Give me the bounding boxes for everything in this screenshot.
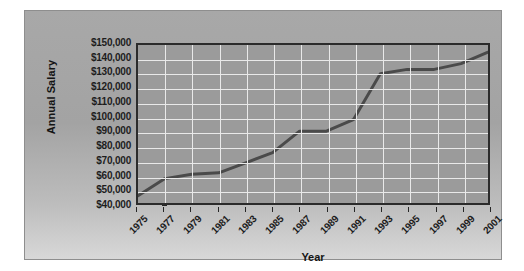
x-axis-tick-label: 1993 [363, 213, 395, 245]
x-axis-tick-label: 1975 [118, 213, 150, 245]
y-axis-tick-label: $90,000 [59, 126, 131, 136]
y-axis-tick-label: $130,000 [59, 67, 131, 77]
gridline-vertical [220, 45, 221, 203]
x-axis-tick-label: 1977 [145, 213, 177, 245]
x-axis-tick-label: 1983 [227, 213, 259, 245]
x-axis-tick-mark [408, 207, 409, 212]
gridline-vertical [301, 45, 302, 203]
gridline-vertical [410, 45, 411, 203]
gridline-vertical [356, 45, 357, 203]
gridline-vertical [329, 45, 330, 203]
gridline-horizontal [138, 119, 488, 120]
y-axis-tick-label: $80,000 [59, 141, 131, 151]
y-axis-tick-label: $60,000 [59, 171, 131, 181]
gridline-horizontal [138, 178, 488, 179]
x-axis-tick-label: 2001 [472, 213, 504, 245]
x-axis-tick-mark [245, 207, 246, 212]
gridline-horizontal [138, 148, 488, 149]
gridline-horizontal [138, 89, 488, 90]
x-axis-tick-mark [190, 207, 191, 212]
x-axis-tick-mark [327, 207, 328, 212]
gridline-horizontal [138, 74, 488, 75]
x-axis-tick-mark [218, 207, 219, 212]
gridline-vertical [192, 45, 193, 203]
data-series-line [138, 45, 488, 203]
x-axis-tick-mark [436, 207, 437, 212]
gridline-vertical [247, 45, 248, 203]
gridline-vertical [165, 45, 166, 203]
gridline-horizontal [138, 192, 488, 193]
gridline-vertical [465, 45, 466, 203]
y-axis-tick-label: $100,000 [59, 112, 131, 122]
gridline-horizontal [138, 163, 488, 164]
x-axis-tick-mark [272, 207, 273, 212]
chart-frame: Annual Salary $150,000$140,000$130,000$1… [24, 10, 502, 260]
x-axis-tick-label: 1991 [336, 213, 368, 245]
x-axis-tick-label: 1981 [200, 213, 232, 245]
gridline-vertical [274, 45, 275, 203]
chart-figure: Annual Salary $150,000$140,000$130,000$1… [0, 0, 524, 271]
x-axis-tick-mark [163, 207, 164, 212]
x-axis-tick-label: 1979 [172, 213, 204, 245]
x-axis-tick-label: 1999 [445, 213, 477, 245]
y-axis-tick-label: $120,000 [59, 82, 131, 92]
y-axis-tick-label: $70,000 [59, 156, 131, 166]
gridline-vertical [438, 45, 439, 203]
x-axis-tick-mark [490, 207, 491, 212]
gridline-vertical [383, 45, 384, 203]
y-axis-tick-label: $110,000 [59, 97, 131, 107]
plot-area [136, 43, 490, 205]
x-axis-tick-mark [299, 207, 300, 212]
x-axis-tick-label: 1995 [390, 213, 422, 245]
x-axis-tick-mark [381, 207, 382, 212]
gridline-horizontal [138, 133, 488, 134]
x-axis-tick-labels: 1975197719791981198319851987198919911993… [136, 207, 490, 255]
x-axis-tick-label: 1987 [281, 213, 313, 245]
gridline-horizontal [138, 60, 488, 61]
x-axis-tick-label: 1989 [309, 213, 341, 245]
x-axis-title: Year [136, 251, 490, 263]
gridline-horizontal [138, 104, 488, 105]
x-axis-tick-label: 1985 [254, 213, 286, 245]
x-axis-tick-label: 1997 [417, 213, 449, 245]
x-axis-tick-mark [136, 207, 137, 212]
x-axis-tick-mark [463, 207, 464, 212]
y-axis-tick-label: $50,000 [59, 185, 131, 195]
x-axis-tick-mark [354, 207, 355, 212]
y-axis-tick-labels: $150,000$140,000$130,000$120,000$110,000… [55, 43, 131, 205]
y-axis-tick-label: $40,000 [59, 200, 131, 210]
y-axis-tick-mark [162, 205, 167, 206]
y-axis-tick-label: $150,000 [59, 38, 131, 48]
y-axis-tick-label: $140,000 [59, 53, 131, 63]
